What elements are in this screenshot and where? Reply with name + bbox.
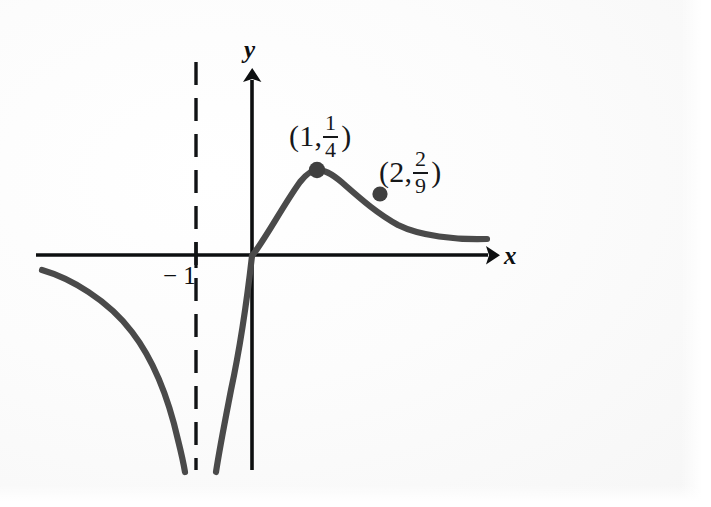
- maximum-point-lead: (1,: [289, 121, 322, 151]
- maximum-point-close: ): [341, 121, 351, 151]
- secondary-point-fraction: 2 9: [413, 148, 428, 198]
- curve-middle-branch: [216, 256, 252, 472]
- x-axis: [36, 246, 500, 265]
- curve-right-branch: [252, 170, 487, 256]
- plot-canvas: [0, 0, 711, 507]
- maximum-point-fraction: 1 4: [323, 112, 338, 162]
- secondary-point-close: ): [431, 157, 441, 187]
- maximum-point-label: (1, 1 4 ): [288, 112, 352, 162]
- maximum-point-numerator: 1: [323, 112, 338, 136]
- x-axis-label: x: [504, 243, 517, 268]
- x-axis-arrowhead: [486, 246, 500, 265]
- graph-figure: x y − 1 (1, 1 4 ) (2, 2 9 ): [0, 0, 711, 507]
- y-axis-label: y: [244, 37, 255, 62]
- maximum-point-denominator: 4: [323, 138, 338, 162]
- y-axis-arrowhead: [243, 68, 261, 82]
- curve-left-branch: [42, 270, 185, 472]
- secondary-point-lead: (2,: [379, 157, 412, 187]
- secondary-point-numerator: 2: [413, 148, 428, 172]
- maximum-point-dot: [309, 162, 325, 178]
- secondary-point-denominator: 9: [413, 174, 428, 198]
- secondary-point-label: (2, 2 9 ): [378, 148, 442, 198]
- x-tick-minus-one-label: − 1: [163, 263, 196, 288]
